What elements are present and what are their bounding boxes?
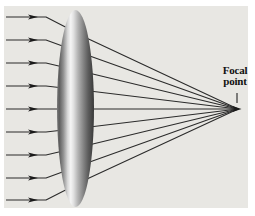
focal-point-label: Focal point: [215, 65, 255, 86]
convex-lens: [57, 10, 94, 207]
lens-ray-diagram: [0, 0, 255, 216]
lens-diagram-figure: Focal point: [0, 0, 255, 216]
